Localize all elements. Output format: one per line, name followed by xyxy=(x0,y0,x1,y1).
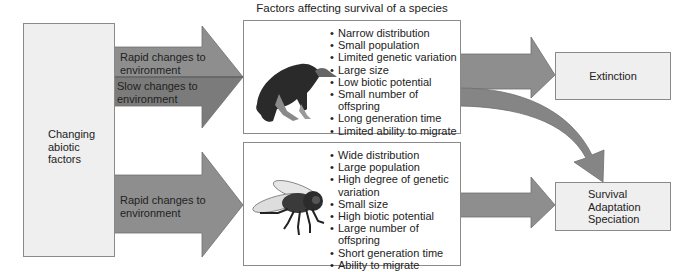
extinction-label: Extinction xyxy=(556,70,670,83)
survival-box: Survival Adaptation Speciation xyxy=(555,182,671,231)
factor-item: High degree of genetic variation xyxy=(330,173,460,197)
changing-abiotic-factors-box: Changing abiotic factors xyxy=(23,23,115,257)
factor-item: High biotic potential xyxy=(330,210,460,222)
to-survival-arrow xyxy=(460,177,555,228)
source-label: Changing abiotic factors xyxy=(48,128,95,166)
factor-item: Wide distribution xyxy=(330,149,460,161)
factors-list-bottom: Wide distribution Large population High … xyxy=(330,149,460,271)
species-box-top: Narrow distribution Small population Lim… xyxy=(243,20,461,134)
label-line: environment xyxy=(120,207,206,220)
source-label-line: abiotic xyxy=(48,141,95,154)
extinction-box: Extinction xyxy=(555,52,671,100)
outcome-line: Survival xyxy=(588,188,641,201)
factor-item: Limited ability to migrate xyxy=(330,125,460,137)
vulture-icon xyxy=(249,49,339,129)
rapid-changes-label-bottom: Rapid changes to environment xyxy=(120,194,206,219)
factor-item: Small size xyxy=(330,198,460,210)
species-box-bottom: Wide distribution Large population High … xyxy=(243,142,461,266)
factor-item: Large number of offspring xyxy=(330,222,460,246)
factor-item: Large population xyxy=(330,161,460,173)
fly-icon xyxy=(248,169,338,239)
slow-changes-label: Slow changes to environment xyxy=(117,80,198,105)
factor-item: Long generation time xyxy=(330,112,460,124)
curved-arrow-to-survival xyxy=(460,88,604,182)
factor-item: Limited genetic variation xyxy=(330,51,460,63)
source-label-line: Changing xyxy=(48,128,95,141)
label-line: Slow changes to xyxy=(117,80,198,93)
rapid-changes-label-top: Rapid changes to environment xyxy=(120,51,206,76)
outcome-line: Adaptation xyxy=(588,201,641,214)
label-line: Rapid changes to xyxy=(120,194,206,207)
label-line: Rapid changes to xyxy=(120,51,206,64)
factors-list-top: Narrow distribution Small population Lim… xyxy=(330,27,460,137)
factor-item: Short generation time xyxy=(330,247,460,259)
survival-label: Survival Adaptation Speciation xyxy=(588,188,641,226)
factor-item: Large size xyxy=(330,64,460,76)
outcome-line: Speciation xyxy=(588,213,641,226)
label-line: environment xyxy=(117,93,198,106)
factor-item: Narrow distribution xyxy=(330,27,460,39)
factor-item: Small population xyxy=(330,39,460,51)
source-label-line: factors xyxy=(48,153,95,166)
factor-item: Low biotic potential xyxy=(330,76,460,88)
factor-item: Ability to migrate xyxy=(330,259,460,271)
label-line: environment xyxy=(120,64,206,77)
diagram-title: Factors affecting survival of a species xyxy=(243,2,461,14)
factor-item: Small number of offspring xyxy=(330,88,460,112)
